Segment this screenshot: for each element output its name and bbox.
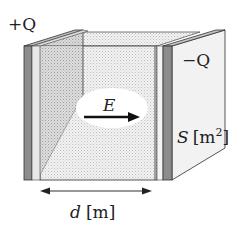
- field-arrow: E: [76, 88, 148, 128]
- right-charge-label: −Q: [182, 50, 210, 70]
- distance-label: d[m]: [70, 202, 115, 222]
- distance-arrow: [40, 188, 152, 195]
- capacitor-diagram: E +Q −Q S[m2] d[m]: [0, 0, 249, 227]
- left-charge-label: +Q: [8, 14, 36, 34]
- field-label: E: [102, 95, 116, 115]
